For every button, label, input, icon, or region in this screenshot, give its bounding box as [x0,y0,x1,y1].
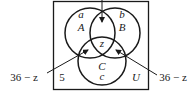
annotation-right: 36 − z [159,71,187,83]
label-b-region: b [119,8,125,20]
label-set-a: A [77,21,85,33]
annotation-left: 36 − z [10,71,38,83]
label-set-b: B [119,21,126,33]
label-universe: U [132,71,141,83]
label-a-region: a [78,8,84,20]
label-c-region: c [100,70,105,82]
venn-diagram: a A b B z C c 5 U 36 − z 36 − z [0,0,194,94]
label-outside-value: 5 [59,71,65,83]
label-center-z: z [99,37,105,49]
